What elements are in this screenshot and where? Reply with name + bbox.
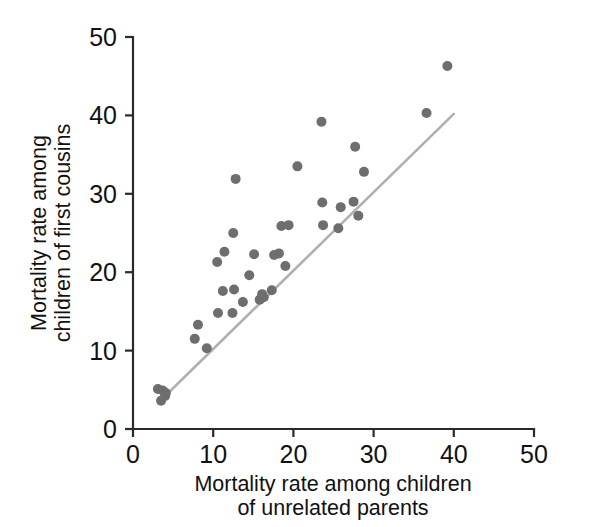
x-tick-label: 0 [126, 440, 140, 468]
data-point [349, 197, 359, 207]
data-point [161, 388, 171, 398]
y-tick-label: 20 [89, 258, 117, 286]
data-point [316, 117, 326, 127]
y-tick-label: 40 [89, 101, 117, 129]
x-tick-label: 20 [279, 440, 307, 468]
reference-line-group [160, 114, 454, 401]
data-point [333, 223, 343, 233]
y-axis-title-line1: Mortality rate among [27, 135, 51, 331]
y-tick-label: 30 [89, 180, 117, 208]
reference-line [160, 114, 454, 401]
x-axis-title-line2: of unrelated parents [237, 496, 428, 520]
data-point [336, 202, 346, 212]
data-point [318, 220, 328, 230]
x-axis-ticks: 01020304050 [126, 429, 548, 468]
data-point [422, 108, 432, 118]
data-point [359, 167, 369, 177]
data-points-group [153, 61, 453, 406]
data-point [228, 228, 238, 238]
scatter-plot-figure: 01020304050 01020304050 Mortality rate a… [0, 0, 592, 527]
data-point [267, 285, 277, 295]
data-point [218, 286, 228, 296]
y-tick-label: 50 [89, 23, 117, 51]
x-tick-label: 10 [199, 440, 227, 468]
data-point [219, 247, 229, 257]
x-tick-label: 30 [360, 440, 388, 468]
data-point [213, 308, 223, 318]
data-point [292, 161, 302, 171]
plot-canvas: 01020304050 01020304050 Mortality rate a… [0, 0, 592, 527]
data-point [202, 343, 212, 353]
data-point [274, 248, 284, 258]
data-point [190, 334, 200, 344]
data-point [284, 220, 294, 230]
data-point [212, 257, 222, 267]
data-point [353, 211, 363, 221]
data-point [249, 249, 259, 259]
y-tick-label: 0 [103, 415, 117, 443]
data-point [280, 261, 290, 271]
x-tick-label: 50 [520, 440, 548, 468]
x-axis-title-line1: Mortality rate among children [194, 472, 471, 496]
data-point [259, 292, 269, 302]
x-tick-label: 40 [440, 440, 468, 468]
data-point [193, 320, 203, 330]
data-point [231, 174, 241, 184]
data-point [238, 297, 248, 307]
data-point [317, 197, 327, 207]
data-point [442, 61, 452, 71]
y-tick-label: 10 [89, 337, 117, 365]
data-point [350, 142, 360, 152]
data-point [227, 308, 237, 318]
y-axis-ticks: 01020304050 [89, 23, 133, 443]
data-point [244, 270, 254, 280]
data-point [229, 284, 239, 294]
y-axis-title-line2: children of first cousins [51, 124, 75, 343]
